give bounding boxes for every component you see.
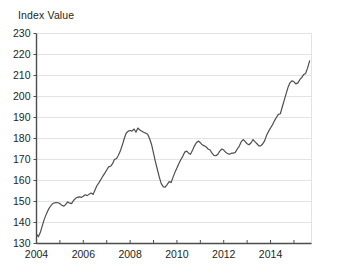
y-tick-label-190: 190 [13,111,31,123]
x-axis-tick-labels: 200420062008201020122014 [25,248,283,260]
y-axis-tick-labels: 130140150160170180190200210220230 [13,27,31,249]
gridlines [37,34,312,244]
y-tick-label-180: 180 [13,132,31,144]
x-tick-label-2012: 2012 [212,248,236,260]
data-series-line [37,61,310,237]
x-tick-label-2014: 2014 [259,248,283,260]
x-tick-label-2010: 2010 [165,248,189,260]
y-tick-label-150: 150 [13,195,31,207]
x-tick-label-2006: 2006 [72,248,96,260]
y-tick-label-220: 220 [13,48,31,60]
y-tick-label-140: 140 [13,216,31,228]
y-tick-label-210: 210 [13,69,31,81]
y-tick-label-230: 230 [13,27,31,39]
y-tick-label-160: 160 [13,174,31,186]
index-value-line-chart: Index Value 1301401501601701801902002102… [0,0,341,280]
y-tick-label-170: 170 [13,153,31,165]
chart-plot-area: 130140150160170180190200210220230 200420… [0,0,341,280]
y-tick-label-200: 200 [13,90,31,102]
x-tick-label-2008: 2008 [118,248,142,260]
x-tick-label-2004: 2004 [25,248,49,260]
